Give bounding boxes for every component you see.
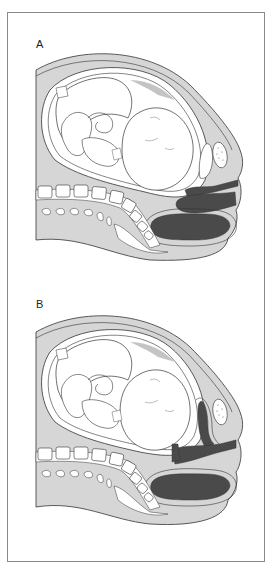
vertebra	[92, 448, 107, 461]
colon	[151, 214, 230, 240]
vertebra	[92, 186, 107, 199]
fetal-head	[122, 108, 193, 190]
vertebra	[74, 447, 88, 459]
colon	[151, 474, 230, 500]
fetal-hand	[112, 410, 122, 422]
vertebra	[56, 447, 70, 459]
vertebra	[38, 186, 52, 198]
fetal-head	[120, 370, 190, 450]
fetal-hand	[112, 148, 122, 160]
vertebra	[74, 185, 88, 197]
panel-b-illustration	[0, 262, 273, 562]
vertebra	[109, 190, 124, 204]
vertebra	[56, 185, 70, 197]
fetal-foot	[56, 86, 68, 98]
panel-a-illustration	[0, 0, 273, 280]
vertebra	[109, 452, 124, 466]
vertebra	[38, 448, 52, 460]
fetal-foot	[56, 348, 68, 360]
